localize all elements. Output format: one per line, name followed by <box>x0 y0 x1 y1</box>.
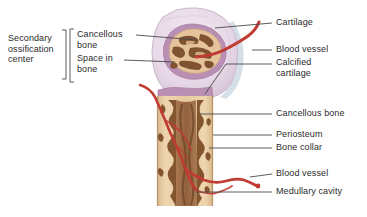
label-secondary-ossification-center: Secondary ossification center <box>8 33 54 65</box>
blood-vessel-tip <box>256 184 261 189</box>
bracket-outer <box>62 30 66 79</box>
bone-development-diagram: Secondary ossification center Cancellous… <box>0 0 367 217</box>
label-medullary-cavity: Medullary cavity <box>276 186 342 197</box>
label-blood-vessel-bottom: Blood vessel <box>276 168 328 179</box>
label-cartilage: Cartilage <box>276 17 313 28</box>
leader-blood-vessel-bottom <box>250 174 272 177</box>
label-calcified-cartilage: Calcified cartilage <box>276 57 311 78</box>
label-cancellous-bone-shaft: Cancellous bone <box>276 108 345 119</box>
label-periosteum: Periosteum <box>276 129 323 140</box>
label-bone-collar: Bone collar <box>276 142 322 153</box>
brackets <box>62 29 74 82</box>
bracket-inner <box>70 29 74 82</box>
epiphysis-group <box>152 8 244 99</box>
label-space-in-bone: Space in bone <box>77 53 113 74</box>
label-blood-vessel-top: Blood vessel <box>276 44 328 55</box>
diaphysis-group <box>157 96 213 206</box>
label-cancellous-bone-top: Cancellous bone <box>77 29 123 50</box>
